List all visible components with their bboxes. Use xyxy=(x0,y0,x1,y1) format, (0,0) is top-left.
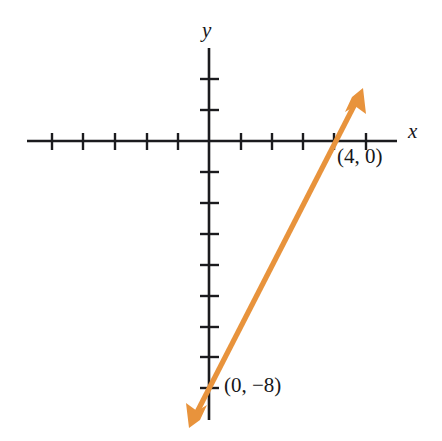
y-intercept-point-label: (0, −8) xyxy=(224,375,281,396)
x-axis-label: x xyxy=(408,121,417,142)
line-arrowhead-upper xyxy=(345,88,366,114)
coordinate-plane-svg xyxy=(0,0,442,441)
graph-canvas: x y (4, 0) (0, −8) xyxy=(0,0,442,441)
line-arrowhead-lower xyxy=(186,403,207,428)
plotted-line-segment xyxy=(195,100,357,416)
y-axis-label: y xyxy=(202,20,211,41)
x-intercept-point-label: (4, 0) xyxy=(337,146,383,167)
